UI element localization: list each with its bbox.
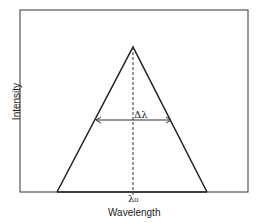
line-width-label: Δλ <box>134 109 148 120</box>
x-axis-label: Wavelength <box>108 207 160 218</box>
plot-frame <box>20 10 248 192</box>
y-axis-label: Intensity <box>11 82 22 122</box>
diagram-canvas <box>0 0 256 223</box>
peak-wavelength-label: λ₀ <box>128 193 138 204</box>
